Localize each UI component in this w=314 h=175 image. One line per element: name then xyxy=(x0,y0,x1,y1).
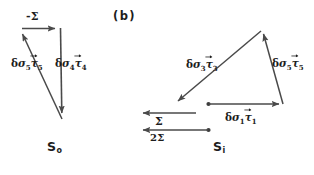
tau-vector-glyph: τ xyxy=(292,57,299,69)
label-two-sigma: 2Σ xyxy=(150,133,164,143)
delta-glyph: δ xyxy=(55,57,62,69)
tau-vector-glyph: τ xyxy=(31,57,38,69)
tau-vector-glyph: τ xyxy=(245,111,252,123)
sigma-glyph: σ xyxy=(18,57,26,69)
label-dsigma5-tau5-left: δσ5τ5 xyxy=(11,57,43,69)
tau-subscript: 5 xyxy=(38,63,43,72)
delta-glyph: δ xyxy=(186,58,193,70)
state-subscript: o xyxy=(57,146,63,155)
tau-subscript: 3 xyxy=(213,64,218,73)
tau-vector-glyph: τ xyxy=(75,57,82,69)
tau-glyph: τ xyxy=(31,57,38,69)
label-dsigma1-tau1: δσ1τ1 xyxy=(225,111,257,123)
state-letter: S xyxy=(213,139,222,154)
vector-dsigma4-tau4 xyxy=(61,28,62,113)
label-minus-sigma: -Σ xyxy=(26,11,39,22)
tau-glyph: τ xyxy=(206,58,213,70)
tau-glyph: τ xyxy=(75,57,82,69)
tau-subscript: 1 xyxy=(252,117,257,126)
label-dsigma3-tau3: δσ3τ3 xyxy=(186,58,218,70)
tau-glyph: τ xyxy=(292,57,299,69)
delta-glyph: δ xyxy=(225,111,232,123)
state-label-s-zero: So xyxy=(47,141,62,154)
state-subscript: i xyxy=(223,146,226,155)
label-sigma: Σ xyxy=(155,116,163,127)
sigma-glyph: σ xyxy=(193,58,201,70)
label-dsigma4-tau4: δσ4τ4 xyxy=(55,57,87,69)
state-label-s-i: Si xyxy=(213,141,225,154)
tau-vector-glyph: τ xyxy=(206,58,213,70)
tau-subscript: 4 xyxy=(82,63,87,72)
tau-glyph: τ xyxy=(245,111,252,123)
tau-subscript: 5 xyxy=(299,63,304,72)
sigma-glyph: σ xyxy=(232,111,240,123)
delta-glyph: δ xyxy=(11,57,18,69)
panel-letter-b: (b) xyxy=(113,11,136,23)
state-letter: S xyxy=(47,139,56,154)
sigma-glyph: σ xyxy=(279,57,287,69)
figure-container: (b) -Σ δσ5τ5 δσ4τ4 So δσ3τ3 δσ5τ5 δσ1τ1 … xyxy=(0,0,314,175)
vector-dsigma5-tau5-left xyxy=(23,34,63,119)
label-dsigma5-tau5-right: δσ5τ5 xyxy=(272,57,304,69)
left-panel-vectors xyxy=(22,28,62,119)
sigma-glyph: σ xyxy=(62,57,70,69)
right-panel-vectors xyxy=(143,31,283,132)
vector-dsigma5-tau5-right xyxy=(264,34,284,104)
delta-glyph: δ xyxy=(272,57,279,69)
